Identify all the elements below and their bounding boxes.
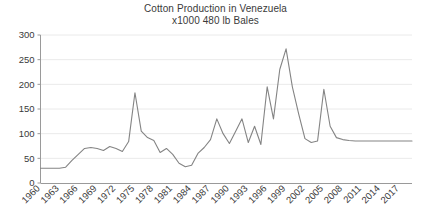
- x-axis-tick-label: 1963: [38, 183, 61, 206]
- x-axis-tick-label: 1990: [208, 183, 231, 206]
- x-axis-tick-label: 2002: [284, 183, 307, 206]
- gridlines: [41, 35, 413, 158]
- x-axis-tick-label: 1996: [246, 183, 269, 206]
- x-axis-tick-label: 1969: [76, 183, 99, 206]
- y-axis-tick-label: 50: [24, 153, 35, 164]
- x-axis-tick-label: 1960: [19, 183, 42, 206]
- x-axis-tick-label: 1981: [151, 183, 174, 206]
- x-axis-tick-label: 2008: [321, 183, 344, 206]
- x-axis-tick-label: 2014: [359, 183, 382, 206]
- chart-container: Cotton Production in Venezuela x1000 480…: [0, 0, 431, 224]
- x-axis-tick-labels: 1960196319661969197219751978198119841987…: [19, 183, 401, 206]
- line-chart-plot: 050100150200250300 196019631966196919721…: [0, 0, 431, 224]
- x-axis-tick-label: 1966: [57, 183, 80, 206]
- x-axis-tick-label: 1978: [133, 183, 156, 206]
- x-axis-tick-label: 1984: [170, 183, 193, 206]
- x-axis-tick-label: 2005: [303, 183, 326, 206]
- y-axis-tick-label: 250: [19, 54, 35, 65]
- y-axis-tick-label: 200: [19, 79, 35, 90]
- x-axis-tick-label: 1993: [227, 183, 250, 206]
- x-axis-tick-label: 1987: [189, 183, 212, 206]
- y-axis-tick-label: 300: [19, 29, 35, 40]
- y-axis-tick-label: 100: [19, 128, 35, 139]
- y-axis-tick-label: 150: [19, 103, 35, 114]
- y-axis-tick-labels: 050100150200250300: [19, 29, 35, 188]
- x-axis-tick-label: 1999: [265, 183, 288, 206]
- x-axis-tick-label: 1975: [114, 183, 137, 206]
- x-axis-tick-label: 2011: [341, 183, 363, 205]
- x-axis-tick-label: 2017: [378, 183, 401, 206]
- x-axis-tick-label: 1972: [95, 183, 118, 206]
